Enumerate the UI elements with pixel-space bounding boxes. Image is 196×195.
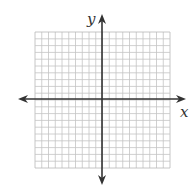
axes — [18, 14, 186, 185]
coordinate-plane: x y — [0, 0, 196, 195]
x-axis-label: x — [180, 103, 189, 121]
y-axis-label: y — [86, 10, 96, 28]
